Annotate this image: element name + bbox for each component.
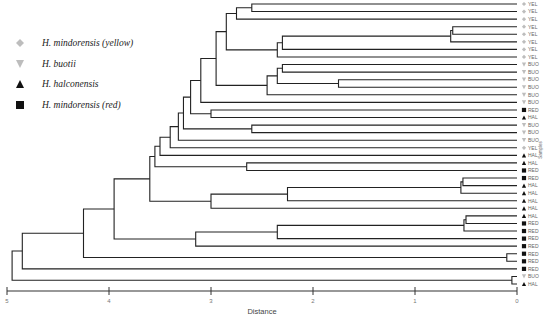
leaf-label: RED (522, 220, 539, 226)
svg-text:RED: RED (528, 228, 539, 234)
leaf-label: RED (522, 266, 539, 272)
triangle-down-icon (522, 78, 526, 82)
leaf-label: YEL (522, 46, 538, 52)
svg-text:HAL: HAL (528, 160, 538, 166)
leaf-label: YEL (522, 39, 538, 45)
diamond-icon (522, 25, 526, 29)
triangle-down-icon (522, 62, 526, 66)
leaf-label: YEL (522, 145, 538, 151)
legend-item: H. buotii (14, 54, 133, 75)
triangle-up-icon (522, 153, 526, 157)
triangle-up-icon (14, 78, 26, 90)
leaf-label: BUO (522, 76, 539, 82)
x-tick-label: 4 (107, 298, 111, 304)
svg-text:HAL: HAL (528, 182, 538, 188)
leaf-label: YEL (522, 24, 538, 30)
triangle-up-icon (522, 115, 526, 119)
leaf-label: RED (522, 175, 539, 181)
svg-text:BUO: BUO (528, 61, 539, 67)
svg-text:HAL: HAL (528, 281, 538, 287)
leaf-label: RED (522, 167, 539, 173)
leaf-label: HAL (522, 152, 538, 158)
svg-text:YEL: YEL (528, 24, 538, 30)
diamond-icon (522, 47, 526, 51)
svg-text:RED: RED (528, 258, 539, 264)
x-tick-label: 1 (413, 298, 417, 304)
diamond-icon (522, 9, 526, 13)
leaf-label: YEL (522, 1, 538, 7)
svg-text:HAL: HAL (528, 190, 538, 196)
leaf-label: HAL (522, 205, 538, 211)
triangle-up-icon (522, 161, 526, 165)
leaf-label: RED (522, 243, 539, 249)
triangle-up-icon (522, 214, 526, 218)
diamond-icon (522, 146, 526, 150)
leaf-label: YEL (522, 31, 538, 37)
leaf-label: RED (522, 235, 539, 241)
legend-label: H. halconensis (42, 79, 98, 89)
triangle-up-icon (522, 199, 526, 203)
square-icon (522, 108, 526, 112)
svg-text:RED: RED (528, 107, 539, 113)
triangle-down-icon (522, 70, 526, 74)
svg-text:BUO: BUO (528, 273, 539, 279)
x-tick-label: 2 (311, 298, 315, 304)
leaf-label: HAL (522, 114, 538, 120)
x-tick-label: 0 (515, 298, 519, 304)
leaf-label: YEL (522, 16, 538, 22)
square-icon (522, 221, 526, 225)
square-icon (522, 252, 526, 256)
triangle-down-icon (522, 85, 526, 89)
diamond-icon (522, 55, 526, 59)
svg-text:RED: RED (528, 243, 539, 249)
svg-text:BUO: BUO (528, 69, 539, 75)
triangle-down-icon (522, 100, 526, 104)
y-axis-label: Samples (538, 141, 543, 159)
square-icon (14, 99, 26, 111)
leaf-label: RED (522, 251, 539, 257)
legend-item: H. halconensis (14, 74, 133, 95)
leaf-label: BUO (522, 129, 539, 135)
leaf-label: HAL (522, 182, 538, 188)
triangle-up-icon (522, 282, 526, 286)
legend-label: H. mindorensis (red) (42, 100, 121, 110)
leaf-label: BUO (522, 122, 539, 128)
svg-text:RED: RED (528, 175, 539, 181)
triangle-down-icon (522, 274, 526, 278)
legend: H. mindorensis (yellow)H. buotiiH. halco… (14, 33, 133, 115)
svg-text:YEL: YEL (528, 31, 538, 37)
diamond-icon (14, 37, 26, 49)
triangle-up-icon (522, 191, 526, 195)
triangle-down-icon (522, 131, 526, 135)
leaf-label: HAL (522, 281, 538, 287)
triangle-up-icon (522, 184, 526, 188)
diamond-icon (522, 32, 526, 36)
leaf-labels: YELYELYELYELYELYELYELYELBUOBUOBUOBUOBUOB… (522, 1, 539, 287)
x-tick-label: 5 (5, 298, 9, 304)
triangle-up-icon (522, 206, 526, 210)
svg-text:HAL: HAL (528, 114, 538, 120)
svg-text:BUO: BUO (528, 129, 539, 135)
svg-text:RED: RED (528, 167, 539, 173)
leaf-label: YEL (522, 8, 538, 14)
legend-item: H. mindorensis (yellow) (14, 33, 133, 54)
svg-text:BUO: BUO (528, 92, 539, 98)
triangle-down-icon (522, 138, 526, 142)
square-icon (522, 229, 526, 233)
x-axis: 543210 (5, 287, 519, 304)
svg-text:YEL: YEL (528, 145, 538, 151)
diamond-icon (522, 40, 526, 44)
leaf-label: BUO (522, 69, 539, 75)
legend-item: H. mindorensis (red) (14, 95, 133, 116)
svg-text:HAL: HAL (528, 213, 538, 219)
svg-text:BUO: BUO (528, 99, 539, 105)
square-icon (522, 176, 526, 180)
svg-text:HAL: HAL (528, 205, 538, 211)
svg-text:RED: RED (528, 220, 539, 226)
leaf-label: YEL (522, 54, 538, 60)
leaf-label: BUO (522, 273, 539, 279)
diamond-icon (522, 2, 526, 6)
leaf-label: HAL (522, 213, 538, 219)
svg-text:YEL: YEL (528, 8, 538, 14)
svg-text:BUO: BUO (528, 84, 539, 90)
